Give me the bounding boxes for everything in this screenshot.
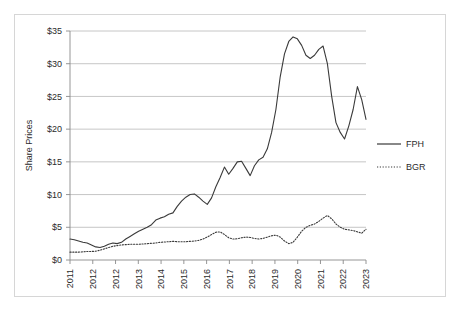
x-tick-label-11: 2021 (316, 269, 326, 289)
x-tick-label-8: 2018 (247, 269, 257, 289)
y-axis-title-text: Share Prices (24, 119, 34, 171)
x-tick-label-0: 2011 (65, 269, 75, 288)
y-tick-label-$15: $15 (47, 157, 62, 167)
y-axis-tick-labels: $0$5$10$15$20$25$30$35 (47, 26, 70, 265)
legend-label-FPH: FPH (406, 139, 424, 149)
series-line-FPH (70, 37, 366, 248)
legend-label-BGR: BGR (406, 162, 426, 172)
y-tick-label-$10: $10 (47, 190, 62, 200)
chart-legend: FPHBGR (377, 139, 426, 172)
y-tick-label-$25: $25 (47, 92, 62, 102)
chart-plot-container: $0$5$10$15$20$25$30$35 20112012201220132… (15, 15, 447, 298)
x-tick-label-10: 2020 (293, 269, 303, 289)
y-tick-label-$30: $30 (47, 59, 62, 69)
x-tick-label-7: 2017 (225, 269, 235, 289)
chart-figure-frame: $0$5$10$15$20$25$30$35 20112012201220132… (14, 14, 446, 297)
x-axis-tickmarks (70, 260, 366, 264)
x-tick-label-13: 2023 (361, 269, 371, 289)
share-prices-line-chart: $0$5$10$15$20$25$30$35 20112012201220132… (15, 15, 447, 298)
series-line-BGR (70, 216, 366, 253)
x-axis-tick-labels: 2011201220122013201420152016201720182019… (65, 269, 371, 289)
y-tick-label-$20: $20 (47, 124, 62, 134)
x-tick-label-1: 2012 (88, 269, 98, 289)
y-axis-title: Share Prices (24, 119, 34, 171)
y-tick-label-$35: $35 (47, 26, 62, 36)
y-tick-label-$5: $5 (52, 222, 62, 232)
y-tick-label-$0: $0 (52, 255, 62, 265)
x-tick-label-9: 2019 (270, 269, 280, 289)
data-series-group (70, 37, 366, 252)
x-tick-label-5: 2015 (179, 269, 189, 289)
x-tick-label-3: 2013 (134, 269, 144, 289)
gridlines (70, 31, 366, 227)
x-tick-label-6: 2016 (202, 269, 212, 289)
x-tick-label-2: 2012 (111, 269, 121, 289)
x-tick-label-4: 2014 (156, 269, 166, 289)
x-tick-label-12: 2022 (338, 269, 348, 289)
